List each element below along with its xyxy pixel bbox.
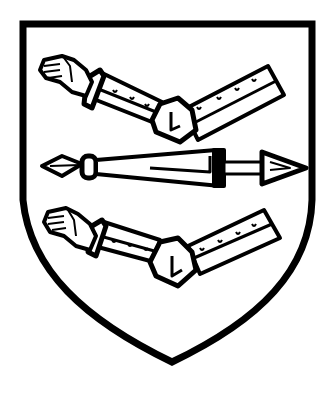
shield-image: Heraldic shield [0,0,328,396]
shield-svg [0,0,328,396]
